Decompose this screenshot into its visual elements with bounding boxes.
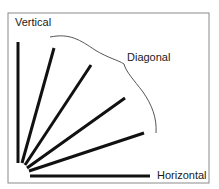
label-vertical: Vertical	[15, 16, 51, 28]
orientation-diagram: Vertical Diagonal Horizontal	[0, 0, 219, 189]
label-horizontal: Horizontal	[157, 169, 207, 181]
label-diagonal: Diagonal	[127, 51, 170, 63]
diagram-frame	[8, 13, 209, 183]
